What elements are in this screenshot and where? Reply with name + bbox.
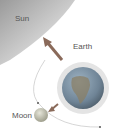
earth-label: Earth bbox=[73, 42, 92, 51]
orbit-marker-dot bbox=[37, 102, 39, 104]
sun-earth-moon-diagram: Sun Earth Moon bbox=[0, 0, 115, 135]
sun-shape bbox=[0, 0, 75, 65]
moon-globe bbox=[34, 108, 48, 122]
sun-label: Sun bbox=[15, 14, 29, 23]
orbit-marker-dot bbox=[99, 126, 101, 128]
earth-sun-arrow bbox=[47, 42, 62, 60]
moon-label: Moon bbox=[12, 111, 32, 120]
